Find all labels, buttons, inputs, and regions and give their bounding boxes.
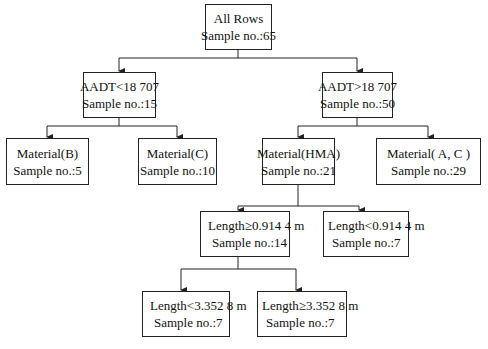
node-sample: Sample no.:7 (328, 234, 401, 251)
node-label: Material(HMA) (257, 145, 340, 162)
node-sample: Sample no.:15 (82, 95, 157, 112)
node-root: All Rows Sample no.:65 (205, 4, 272, 50)
node-sample: Sample no.:7 (150, 314, 223, 331)
node-label: AADT>18 707 (318, 78, 397, 95)
node-length-lt-09144: Length<0.914 4 m Sample no.:7 (323, 211, 409, 257)
node-length-ge-09144: Length≥0.914 4 m Sample no.:14 (200, 211, 290, 257)
node-sample: Sample no.:65 (201, 27, 276, 44)
node-label: Length≥3.352 8 m (262, 297, 358, 314)
node-label: Material(B) (17, 145, 78, 162)
node-length-ge-33528: Length≥3.352 8 m Sample no.:7 (257, 291, 347, 337)
node-label: Material(C) (147, 145, 208, 162)
node-length-lt-33528: Length<3.352 8 m Sample no.:7 (142, 291, 230, 337)
node-material-ac: Material( A, C ) Sample no.:29 (376, 138, 481, 185)
node-sample: Sample no.:14 (208, 234, 287, 251)
node-material-b: Material(B) Sample no.:5 (6, 138, 89, 185)
node-aadt-high: AADT>18 707 Sample no.:50 (322, 72, 393, 118)
node-label: Length<0.914 4 m (328, 217, 425, 234)
node-sample: Sample no.:29 (391, 162, 466, 179)
node-aadt-low: AADT<18 707 Sample no.:15 (83, 72, 156, 118)
node-material-c: Material(C) Sample no.:10 (138, 138, 217, 185)
node-sample: Sample no.:21 (261, 162, 336, 179)
node-sample: Sample no.:5 (13, 162, 82, 179)
node-sample: Sample no.:7 (262, 314, 335, 331)
node-label: Length≥0.914 4 m (208, 217, 304, 234)
node-material-hma: Material(HMA) Sample no.:21 (262, 138, 335, 185)
node-label: All Rows (214, 10, 263, 27)
node-label: AADT<18 707 (80, 78, 159, 95)
figure-caption-cropped (170, 341, 350, 349)
node-sample: Sample no.:10 (140, 162, 215, 179)
node-sample: Sample no.:50 (320, 95, 395, 112)
node-label: Material( A, C ) (387, 145, 470, 162)
node-label: Length<3.352 8 m (150, 297, 247, 314)
